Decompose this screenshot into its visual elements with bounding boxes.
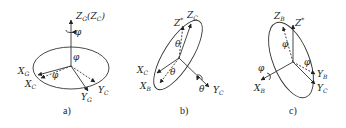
label-theta-right-b: θ (199, 85, 204, 94)
label-xg: XG (18, 67, 29, 77)
label-phi-right-c: φ (304, 58, 310, 67)
label-zstar-c: Z* (295, 17, 304, 28)
yc-axis (71, 66, 95, 82)
label-zc-b: ZC (187, 11, 198, 21)
label-zb-c: ZB (274, 12, 285, 22)
yg-axis (71, 66, 88, 91)
label-phi-lower-a: φ (52, 71, 58, 80)
label-phi-left-c: φ (258, 64, 264, 73)
label-phi-top-a: φ (75, 28, 81, 37)
label-zg-zc: ZG(ZC) (76, 12, 105, 22)
label-yc-c: YC (317, 84, 328, 94)
panel-c-graphics (259, 16, 322, 104)
caption-a: a) (63, 106, 71, 116)
label-theta-top-b: θ (175, 40, 180, 49)
label-phi-center-a: φ (73, 53, 79, 62)
label-xc-a: XC (25, 80, 36, 90)
caption-b: b) (180, 106, 188, 116)
label-xc-b: XC (137, 66, 148, 76)
label-yg: YG (81, 93, 92, 103)
label-phi-top-c: φ (282, 40, 288, 49)
label-xb-c: XB (254, 84, 265, 94)
xb-axis-c (261, 62, 293, 80)
label-yc-b: YC (213, 86, 224, 96)
caption-c: c) (289, 106, 297, 116)
label-yb-c: YB (317, 70, 327, 80)
yc-axis-b (179, 58, 209, 87)
xc-axis-b (157, 58, 179, 73)
rotation-diagrams-figure: ZG(ZC) φ φ φ XG XC YG YC a) Z* ZC θ θ θ … (0, 0, 346, 128)
label-zstar-b: Z* (174, 17, 183, 28)
label-xb-b: XB (140, 82, 151, 92)
disk-ellipse-c (259, 16, 322, 104)
panel-a-graphics (33, 20, 109, 91)
label-theta-mid-b: θ (170, 68, 175, 77)
label-yc-a: YC (98, 86, 109, 96)
